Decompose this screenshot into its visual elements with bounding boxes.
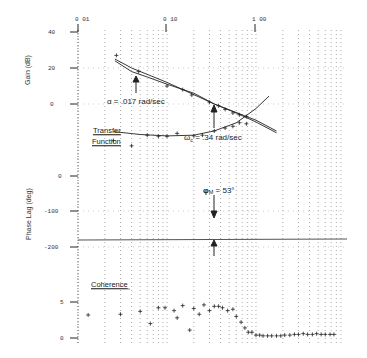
gain-axis-title: Gain (dB) [24,55,32,85]
gain-tick-20: 20 [48,65,56,72]
phase-tick-0: 0 [58,173,62,180]
gain-tick-40: 40 [48,29,56,36]
phase-margin-annotation: φM = 53° [203,186,235,195]
phase-tick-m200: -200 [44,244,59,251]
bode-plot: 0 01 0 10 1 00 40 20 0 Gain (dB) 0 -100 … [0,0,367,358]
phase-tick-m100: -100 [44,208,59,215]
x-tick-0-01: 0 01 [75,16,90,23]
phase-180-reference-line [78,239,347,240]
x-tick-1-00: 1 00 [252,16,267,23]
transfer-function-label-line1: Transfer [93,126,121,135]
wc-annotation: ωc = .34 rad/sec [184,133,242,143]
gain-tick-0: 0 [50,101,54,108]
alpha-annotation: α = .017 rad/sec [107,97,165,106]
coh-tick-5: 5 [60,299,64,306]
phase-y-axis [70,176,78,247]
coherence-y-axis [70,302,78,338]
wc-arrow-icon [211,105,217,128]
coherence-label: Coherence [91,280,128,289]
phi-arrow-up-icon [211,240,217,256]
coh-tick-0: 0 [60,335,64,342]
alpha-arrow-icon [133,76,139,93]
transfer-function-label-line2: Function [92,137,121,146]
phase-axis-title: Phase Lag (deg) [25,188,33,240]
x-tick-0-10: 0 10 [163,16,178,23]
gain-y-axis [70,32,78,104]
phi-arrow-down-icon [211,195,217,218]
